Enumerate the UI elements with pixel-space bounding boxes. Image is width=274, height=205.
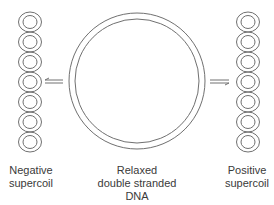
equilibrium-arrow-right bbox=[210, 80, 229, 85]
relaxed-dna-circle bbox=[69, 13, 205, 149]
positive-label-line2: supercoil bbox=[216, 177, 274, 190]
positive-supercoil-label: Positive supercoil bbox=[216, 164, 274, 190]
negative-supercoil-label: Negative supercoil bbox=[0, 164, 62, 190]
relaxed-label-line3: DNA bbox=[82, 190, 192, 203]
positive-label-line1: Positive bbox=[216, 164, 274, 177]
relaxed-label-line1: Relaxed bbox=[82, 164, 192, 177]
relaxed-dna-label: Relaxed double stranded DNA bbox=[82, 164, 192, 203]
relaxed-label-line2: double stranded bbox=[82, 177, 192, 190]
positive-supercoil-graphic bbox=[237, 12, 260, 152]
negative-label-line2: supercoil bbox=[0, 177, 62, 190]
negative-supercoil-graphic bbox=[19, 12, 42, 152]
equilibrium-arrow-left bbox=[45, 78, 63, 83]
negative-label-line1: Negative bbox=[0, 164, 62, 177]
